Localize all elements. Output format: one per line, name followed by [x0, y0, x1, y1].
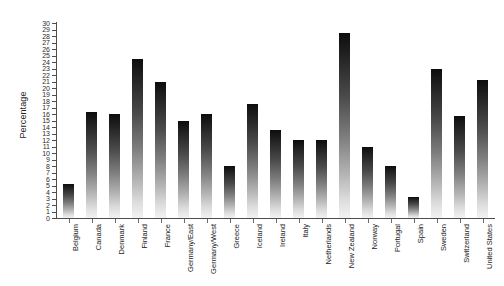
x-axis-tick [92, 219, 93, 223]
y-axis-tick-label: 23 [4, 65, 50, 72]
y-axis-tick [52, 108, 57, 109]
x-axis-tick [414, 219, 415, 223]
y-axis-tick [52, 160, 57, 161]
bar [385, 166, 396, 218]
y-axis-tick [52, 30, 57, 31]
y-axis-tick [52, 69, 57, 70]
x-axis-tick-label: Norway [371, 224, 379, 286]
y-axis-tick [52, 43, 57, 44]
y-axis-tick [52, 186, 57, 187]
y-axis-tick-label: 26 [4, 46, 50, 53]
y-axis-tick-label: 29 [4, 26, 50, 33]
bar [362, 147, 373, 219]
y-axis-tick-label: 9 [4, 156, 50, 163]
x-axis-tick [437, 219, 438, 223]
y-axis-tick-label: 8 [4, 163, 50, 170]
x-axis-tick-label: New Zealand [348, 224, 356, 286]
y-axis-tick-label: 0 [4, 215, 50, 222]
x-axis-tick [69, 219, 70, 223]
y-axis-tick-label: 20 [4, 85, 50, 92]
x-axis-tick-label: Greece [233, 224, 241, 286]
y-axis-tick-label: 1 [4, 208, 50, 215]
y-axis-tick [52, 205, 57, 206]
y-axis-tick [52, 192, 57, 193]
x-axis-tick-label: Germany/West [210, 224, 218, 286]
x-axis-tick [115, 219, 116, 223]
y-axis-tick [52, 36, 57, 37]
x-axis-tick-label: Netherlands [325, 224, 333, 286]
bar [132, 59, 143, 218]
bar-chart: Percentage 01234567891011121314151617181… [0, 0, 504, 286]
y-axis-tick-label: 12 [4, 137, 50, 144]
y-axis-tick [52, 147, 57, 148]
x-axis-tick-label: Germany/East [187, 224, 195, 286]
x-axis-tick-label: Ireland [279, 224, 287, 286]
y-axis-tick [52, 82, 57, 83]
y-axis-tick-label: 19 [4, 91, 50, 98]
y-axis-tick [52, 153, 57, 154]
y-axis-tick [52, 23, 57, 24]
bar [339, 33, 350, 218]
y-axis-tick-label: 4 [4, 189, 50, 196]
bar [224, 166, 235, 218]
y-axis-tick [52, 49, 57, 50]
y-axis-tick-label: 30 [4, 20, 50, 27]
bar [270, 130, 281, 218]
x-axis-tick-label: France [164, 224, 172, 286]
y-axis-tick-label: 7 [4, 169, 50, 176]
y-axis-tick [52, 95, 57, 96]
y-axis-tick-label: 10 [4, 150, 50, 157]
x-axis-tick [276, 219, 277, 223]
x-axis-tick [161, 219, 162, 223]
y-axis-tick-label: 15 [4, 117, 50, 124]
plot-area [57, 23, 494, 218]
x-axis-tick [368, 219, 369, 223]
y-axis-tick-label: 16 [4, 111, 50, 118]
bar [454, 116, 465, 218]
y-axis-tick [52, 218, 57, 219]
x-axis-tick [207, 219, 208, 223]
x-axis-tick [345, 219, 346, 223]
y-axis-tick-label: 2 [4, 202, 50, 209]
x-axis-tick [253, 219, 254, 223]
x-axis-tick [299, 219, 300, 223]
x-axis-tick [138, 219, 139, 223]
y-axis-tick [52, 101, 57, 102]
y-axis-tick-label: 14 [4, 124, 50, 131]
y-axis-tick [52, 212, 57, 213]
y-axis-tick [52, 173, 57, 174]
y-axis-tick-label: 11 [4, 143, 50, 150]
y-axis-tick [52, 114, 57, 115]
x-axis-tick-label: Denmark [118, 224, 126, 286]
y-axis-tick-label: 24 [4, 59, 50, 66]
y-axis-tick-label: 27 [4, 39, 50, 46]
bar [178, 121, 189, 219]
bar [109, 114, 120, 218]
y-axis-tick [52, 62, 57, 63]
y-axis-tick-label: 21 [4, 78, 50, 85]
y-axis-tick-label: 13 [4, 130, 50, 137]
y-axis-tick [52, 179, 57, 180]
x-axis-tick-label: Spain [417, 224, 425, 286]
bar [155, 82, 166, 219]
y-axis-tick [52, 127, 57, 128]
x-axis-tick-label: Belgium [72, 224, 80, 286]
y-axis-tick-label: 18 [4, 98, 50, 105]
y-axis-tick [52, 134, 57, 135]
x-axis-tick [460, 219, 461, 223]
y-axis-tick [52, 121, 57, 122]
x-axis-tick-label: Italy [302, 224, 310, 286]
x-axis-tick [184, 219, 185, 223]
bar [408, 197, 419, 218]
y-axis-tick-label: 17 [4, 104, 50, 111]
y-axis-tick-label: 5 [4, 182, 50, 189]
x-axis-tick-label: Canada [95, 224, 103, 286]
y-axis-tick-labels: 0123456789101112131415161718192021222324… [0, 0, 50, 286]
x-axis-tick [230, 219, 231, 223]
y-axis-tick [52, 75, 57, 76]
x-axis-tick-label: Switzerland [463, 224, 471, 286]
x-axis-tick-label: Iceland [256, 224, 264, 286]
y-axis-tick-label: 3 [4, 195, 50, 202]
y-axis-tick [52, 88, 57, 89]
bar [316, 140, 327, 218]
